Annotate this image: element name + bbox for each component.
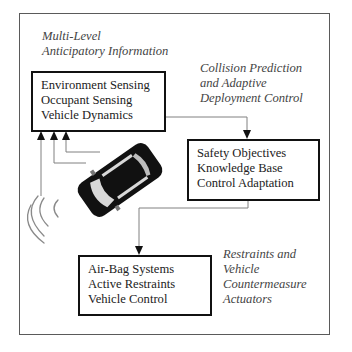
caption-line: Restraints and <box>223 247 306 262</box>
diagram: Multi-Level Anticipatory Information Col… <box>0 0 352 352</box>
box-line: Air-Bag Systems <box>88 262 210 277</box>
caption-line: Actuators <box>223 292 306 307</box>
actuation-box: Air-Bag Systems Active Restraints Vehicl… <box>78 255 212 316</box>
sensor-arrow-dynamics <box>62 131 100 152</box>
box-line: Vehicle Dynamics <box>41 108 164 123</box>
box-line: Safety Objectives <box>197 146 318 161</box>
caption-line: Countermeasure <box>223 277 306 292</box>
box-line: Environment Sensing <box>41 78 164 93</box>
car-top-view-icon <box>72 136 168 223</box>
box-line: Control Adaptation <box>197 176 318 191</box>
caption-anticipatory-information: Multi-Level Anticipatory Information <box>42 29 168 59</box>
box-line: Occupant Sensing <box>41 93 164 108</box>
sensing-box: Environment Sensing Occupant Sensing Veh… <box>31 71 166 132</box>
box-line: Active Restraints <box>88 277 210 292</box>
decision-box: Safety Objectives Knowledge Base Control… <box>187 139 320 201</box>
caption-line: Multi-Level <box>42 29 168 44</box>
connector-sensing-to-decision <box>165 117 251 139</box>
caption-line: Vehicle <box>223 262 306 277</box>
caption-line: Anticipatory Information <box>42 44 168 59</box>
box-line: Knowledge Base <box>197 161 318 176</box>
caption-collision-prediction: Collision Prediction and Adaptive Deploy… <box>200 61 303 106</box>
caption-line: Deployment Control <box>200 91 303 106</box>
caption-line: Collision Prediction <box>200 61 303 76</box>
caption-restraints-actuators: Restraints and Vehicle Countermeasure Ac… <box>223 247 306 307</box>
caption-line: and Adaptive <box>200 76 303 91</box>
sensor-arrow-waves <box>37 131 45 196</box>
radar-waves-icon <box>28 196 58 243</box>
box-line: Vehicle Control <box>88 292 210 307</box>
